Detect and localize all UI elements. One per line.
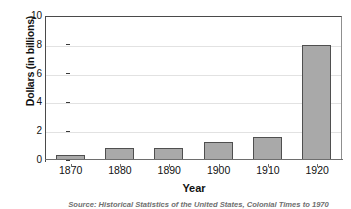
bar[interactable] — [302, 45, 331, 160]
y-tick-label: 4 — [22, 97, 42, 107]
y-tick-label: 8 — [22, 40, 42, 50]
x-axis-tick-labels: 1870 1880 1890 1900 1910 1920 — [46, 164, 342, 176]
x-tick-mark — [120, 164, 121, 167]
bar[interactable] — [253, 137, 282, 160]
x-tick-mark — [169, 164, 170, 167]
bar-slot — [144, 17, 193, 160]
bar[interactable] — [204, 142, 233, 160]
bar-series — [46, 17, 341, 160]
x-tick-mark — [317, 164, 318, 167]
x-tick-mark — [219, 164, 220, 167]
bar-chart-figure: Dollars (in billions) 10 8 6 4 2 0 1870 … — [0, 0, 351, 209]
source-note: Source: Historical Statistics of the Uni… — [46, 200, 351, 209]
x-axis-title: Year — [46, 182, 342, 194]
y-tick-label: 0 — [22, 155, 42, 165]
bar-slot — [292, 17, 341, 160]
bar-slot — [95, 17, 144, 160]
bar[interactable] — [105, 148, 134, 160]
y-tick-label: 6 — [22, 69, 42, 79]
bar-slot — [46, 17, 95, 160]
bar[interactable] — [56, 155, 85, 160]
plot-area — [46, 16, 342, 160]
y-axis-tick-labels: 10 8 6 4 2 0 — [22, 16, 42, 160]
bar-slot — [193, 17, 242, 160]
y-tick-label: 2 — [22, 126, 42, 136]
y-tick-label: 10 — [22, 11, 42, 21]
bar-slot — [243, 17, 292, 160]
x-tick-mark — [268, 164, 269, 167]
bar[interactable] — [154, 148, 183, 160]
x-tick-mark — [71, 164, 72, 167]
